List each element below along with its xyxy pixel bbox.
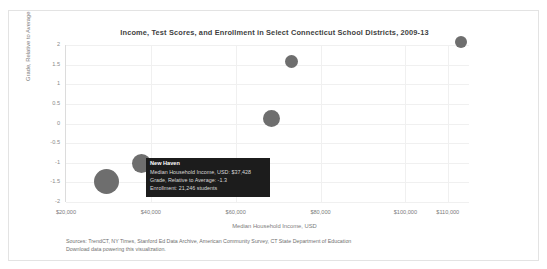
y-axis-tick-label: 0	[32, 121, 60, 127]
data-point-bubble[interactable]	[263, 110, 280, 127]
gridline-vertical	[321, 45, 322, 202]
x-axis-tick-label: $20,000	[36, 210, 96, 216]
gridline-vertical	[405, 45, 406, 202]
data-point-bubble[interactable]	[94, 169, 119, 194]
tooltip-row-income: Median Household Income, USD: $37,428	[150, 169, 266, 177]
gridline-horizontal	[66, 104, 469, 105]
data-point-bubble[interactable]	[285, 55, 298, 68]
gridline-horizontal	[66, 45, 469, 46]
y-axis-tick-label: -0.5	[32, 140, 60, 146]
tooltip-row-grade: Grade, Relative to Average: -1.3	[150, 177, 266, 185]
x-axis-tick-label: $60,000	[206, 210, 266, 216]
y-axis-tick-label: 1	[32, 81, 60, 87]
data-point-tooltip: New Haven Median Household Income, USD: …	[146, 158, 270, 197]
y-axis-tick-label: 2	[32, 42, 60, 48]
gridline-horizontal	[66, 65, 469, 66]
y-axis-title: Grade, Relative to Average	[25, 12, 31, 82]
x-axis-tick-label: $80,000	[291, 210, 351, 216]
y-axis-tick-label: -1.5	[32, 179, 60, 185]
y-axis-tick-label: -1	[32, 160, 60, 166]
footer-download-link[interactable]: Download data powering this visualizatio…	[66, 245, 496, 253]
gridline-horizontal	[66, 84, 469, 85]
gridline-horizontal	[66, 143, 469, 144]
x-axis-tick-label: $40,000	[121, 210, 181, 216]
y-axis-tick-label: -2	[32, 199, 60, 205]
tooltip-row-enrollment: Enrollment: 21,246 students	[150, 185, 266, 193]
data-point-bubble[interactable]	[455, 36, 467, 48]
gridline-vertical	[448, 45, 449, 202]
gridline-horizontal	[66, 202, 469, 203]
y-axis-tick-label: 1.5	[32, 62, 60, 68]
visualization-frame: Income, Test Scores, and Enrollment in S…	[8, 10, 539, 261]
x-axis-title: Median Household Income, USD	[9, 223, 540, 229]
footer: Sources: TrendCT, NY Times, Stanford Ed …	[66, 237, 496, 253]
x-axis-tick-label: $110,000	[418, 210, 478, 216]
tooltip-title: New Haven	[150, 161, 266, 167]
y-axis-line	[65, 45, 66, 202]
footer-sources: Sources: TrendCT, NY Times, Stanford Ed …	[66, 237, 496, 245]
y-axis-tick-label: 0.5	[32, 101, 60, 107]
